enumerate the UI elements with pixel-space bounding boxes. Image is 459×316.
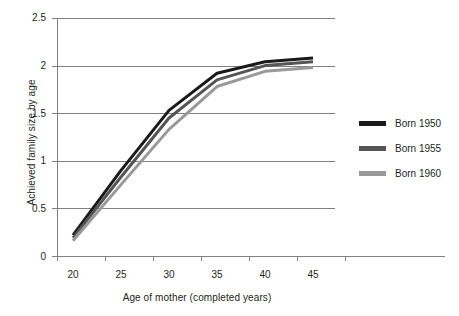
legend-label-1: Born 1955 xyxy=(395,143,441,154)
line-chart-figure: Achieved family size by age Age of mothe… xyxy=(0,0,459,316)
gridlines xyxy=(57,19,335,209)
legend-item-2: Born 1960 xyxy=(359,161,459,186)
legend-item-0: Born 1950 xyxy=(359,111,459,136)
legend-item-1: Born 1955 xyxy=(359,136,459,161)
legend-label-2: Born 1960 xyxy=(395,168,441,179)
legend-swatch-icon-2 xyxy=(359,171,386,176)
data-series-group xyxy=(73,58,313,241)
chart-legend: Born 1950 Born 1955 Born 1960 xyxy=(359,111,459,186)
series-line-born-1955 xyxy=(73,62,313,238)
axis-tick-marks xyxy=(52,19,346,262)
legend-swatch-icon-1 xyxy=(359,146,386,151)
legend-swatch-icon-0 xyxy=(359,121,386,126)
legend-label-0: Born 1950 xyxy=(395,118,441,129)
